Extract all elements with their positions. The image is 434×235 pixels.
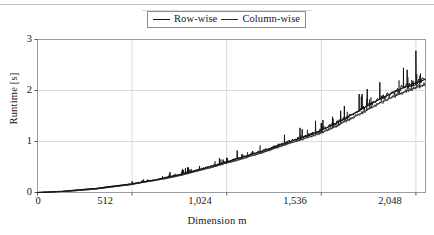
- axis-ticks: [35, 40, 416, 196]
- x-tick-label-512: 512: [75, 196, 135, 206]
- y-tick-label-3: 3: [6, 34, 32, 44]
- legend-line-sample-row-wise: [153, 19, 170, 20]
- gridlines: [38, 40, 426, 193]
- x-tick-label-1536: 1,536: [265, 196, 325, 206]
- legend-line-sample-column-wise: [221, 19, 238, 20]
- legend-label-column-wise: Column-wise: [242, 14, 300, 25]
- x-axis-label: Dimension m: [0, 215, 434, 226]
- plot-frame: [38, 40, 426, 193]
- y-tick-label-2: 2: [6, 85, 32, 95]
- top-divider: [0, 4, 434, 5]
- figure-canvas: Row-wise Column-wise Runtime [s] Dimensi…: [0, 0, 434, 235]
- x-tick-label-2048: 2,048: [360, 196, 420, 206]
- x-tick-label-0: 0: [8, 196, 68, 206]
- y-axis-label: Runtime [s]: [8, 59, 19, 139]
- data-series: [38, 51, 426, 193]
- chart-legend: Row-wise Column-wise: [147, 11, 306, 28]
- x-tick-label-1024: 1,024: [170, 196, 230, 206]
- y-tick-label-1: 1: [6, 136, 32, 146]
- legend-label-row-wise: Row-wise: [174, 14, 217, 25]
